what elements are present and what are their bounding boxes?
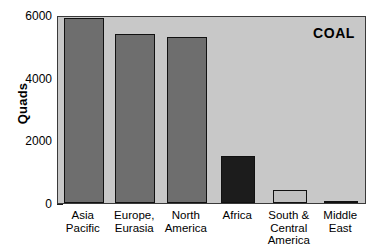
- bar-0: [64, 18, 104, 203]
- chart-figure: Quads 0200040006000 COAL Asia PacificEur…: [0, 0, 381, 249]
- x-tick-label-5: Middle East: [306, 209, 374, 234]
- bar-5: [324, 201, 358, 204]
- bar-2: [167, 37, 207, 203]
- y-tick-label-4000: 4000: [0, 73, 61, 85]
- bar-1: [115, 34, 155, 203]
- y-tick-label-2000: 2000: [0, 135, 61, 147]
- bar-3: [221, 156, 255, 203]
- bar-series: [58, 17, 365, 203]
- bar-4: [273, 190, 307, 203]
- y-tick-mark-0: [57, 204, 63, 205]
- chart-annotation-coal: COAL: [313, 25, 355, 41]
- y-tick-label-6000: 6000: [0, 10, 61, 22]
- plot-area: COAL: [57, 16, 366, 204]
